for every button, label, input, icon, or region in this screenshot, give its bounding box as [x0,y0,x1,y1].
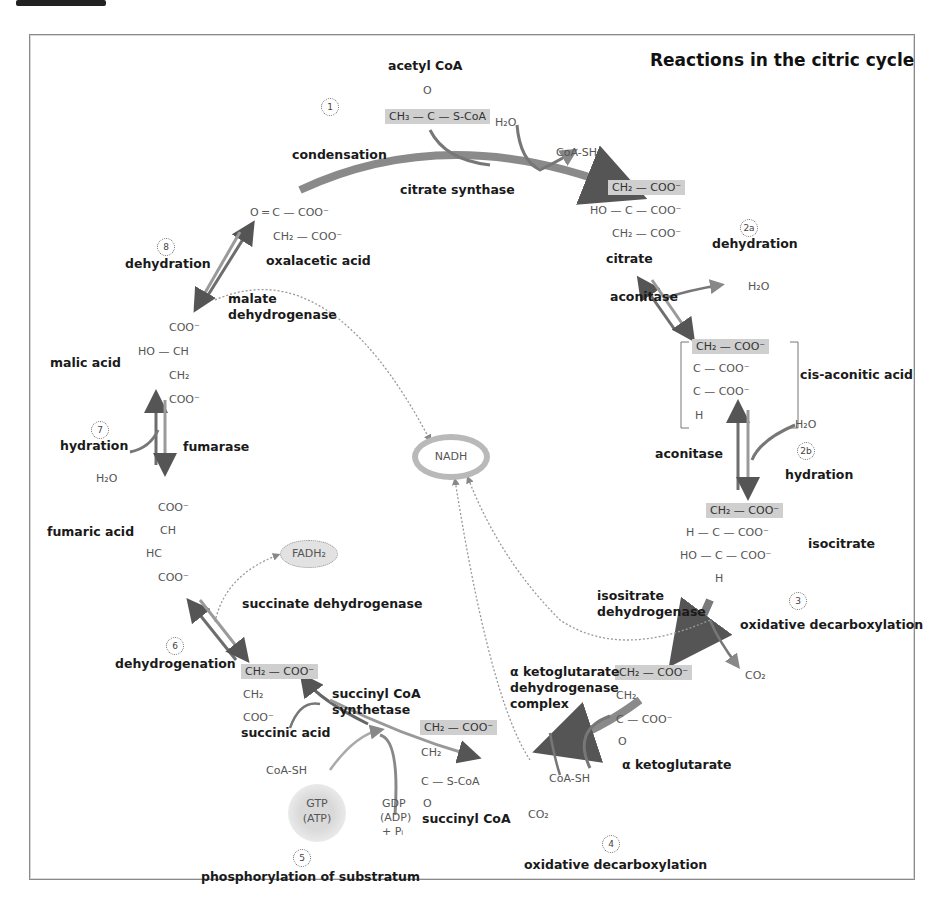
succinyl-coa-line4: O [423,796,432,811]
succinyl-coa-line3: C — S-CoA [421,774,480,789]
malic-line4: COO⁻ [169,392,200,407]
citrate-structure-line3: CH₂ — COO⁻ [612,226,681,241]
gdp-input: GDP [382,797,406,810]
step-1-enzyme: citrate synthase [400,182,515,198]
pi-input: + Pᵢ [382,825,403,838]
akg-structure: CH₂ — COO⁻ [615,665,692,680]
step-4-enzyme-line1: α ketoglutarate [510,664,620,680]
step-2b-reaction: hydration [785,467,853,483]
acetyl-coa-oxygen: O [423,83,432,98]
malic-line3: CH₂ [169,368,189,383]
step-4-marker: 4 [602,835,620,853]
isocitrate-line3: HO — C — COO⁻ [680,548,771,563]
step-3-enzyme-line2: dehydrogenase [597,604,706,620]
malic-line1: COO⁻ [169,320,200,335]
fumaric-line4: COO⁻ [158,570,189,585]
step-5-marker: 5 [293,849,311,867]
step-3-enzyme-line1: isositrate [597,588,664,604]
co2-output-3: CO₂ [745,669,766,682]
step-2a-reaction: dehydration [712,236,798,252]
succinyl-coa-line2: CH₂ [421,745,441,760]
gtp-atp-product: GTP (ATP) [288,784,346,842]
cis-aconitic-line3: C — COO⁻ [693,384,749,399]
succinyl-coa-structure: CH₂ — COO⁻ [420,720,497,735]
succinic-structure: CH₂ — COO⁻ [241,664,318,679]
adp-input: (ADP) [380,811,411,824]
step-2b-enzyme: aconitase [655,446,723,462]
citrate-label: citrate [606,251,653,267]
step-4-enzyme-line2: dehydrogenase [510,680,619,696]
step-5-reaction: phosphorylation of substratum [201,869,420,885]
succinic-line3: COO⁻ [243,710,274,725]
akg-label: α ketoglutarate [622,757,732,773]
coash-output-5: CoA-SH [266,764,307,777]
step-7-enzyme: fumarase [183,439,249,455]
step-7-marker: 7 [91,421,109,439]
step-6-marker: 6 [166,637,184,655]
malic-acid-label: malic acid [50,355,121,371]
co2-output-4: CO₂ [528,808,549,821]
acetyl-coa-label: acetyl CoA [388,58,463,74]
oxalacetic-line2: CH₂ — COO⁻ [273,229,342,244]
water-input-1: H₂O [495,116,516,129]
step-1-reaction: condensation [292,147,387,163]
succinic-line2: CH₂ [243,687,263,702]
fumaric-line1: COO⁻ [158,500,189,515]
step-2a-marker: 2a [740,219,758,237]
step-4-reaction: oxidative decarboxylation [524,857,707,873]
water-input-2b: H₂O [795,418,816,431]
step-7-reaction: hydration [60,438,128,454]
step-3-marker: 3 [789,592,807,610]
coash-input-4: CoA-SH [549,772,590,785]
cis-aconitic-label: cis-aconitic acid [800,367,913,383]
step-8-reaction: dehydration [125,256,211,272]
cis-aconitic-structure: CH₂ — COO⁻ [692,339,769,354]
citrate-structure: CH₂ — COO⁻ [608,180,685,195]
step-5-enzyme-line1: succinyl CoA [332,686,421,702]
step-6-reaction: dehydrogenation [115,656,236,672]
step-1-marker: 1 [321,98,339,116]
akg-line2: CH₂ [616,688,636,703]
atp-label: (ATP) [288,811,346,826]
gtp-label: GTP [288,796,346,811]
isocitrate-line4: H [715,571,723,586]
water-input-7: H₂O [96,472,117,485]
fumaric-line3: HC [146,546,162,561]
oxalacetic-line1: O ═ C — COO⁻ [250,205,329,220]
step-8-enzyme-line2: dehydrogenase [228,307,337,323]
succinyl-coa-label: succinyl CoA [422,811,511,827]
step-2a-enzyme: aconitase [610,289,678,305]
fumaric-line2: CH [160,523,176,538]
step-8-enzyme-line1: malate [228,291,277,307]
cis-aconitic-line4: H [695,408,703,423]
isocitrate-label: isocitrate [808,536,875,552]
step-3-reaction: oxidative decarboxylation [740,617,923,633]
step-5-enzyme-line2: synthetase [332,702,410,718]
nadh-product: NADH [418,440,484,474]
akg-line4: O [618,734,627,749]
malic-line2: HO — CH [138,344,189,359]
cis-aconitic-line2: C — COO⁻ [693,361,749,376]
succinic-acid-label: succinic acid [241,725,330,741]
water-output-2a: H₂O [748,280,769,293]
fadh2-product: FADH₂ [280,540,338,568]
step-8-marker: 8 [157,238,175,256]
akg-line3: C — COO⁻ [616,712,672,727]
coash-output-1: CoA-SH [556,146,597,159]
isocitrate-line2: H — C — COO⁻ [686,525,769,540]
step-4-enzyme-line3: complex [510,696,569,712]
step-6-enzyme: succinate dehydrogenase [242,596,422,612]
isocitrate-structure: CH₂ — COO⁻ [706,503,783,518]
citrate-structure-line2: HO — C — COO⁻ [590,203,681,218]
diagram-title: Reactions in the citric cycle [650,50,914,70]
acetyl-coa-structure: CH₃ — C — S-CoA [385,109,490,124]
oxalacetic-acid-label: oxalacetic acid [266,253,371,269]
fumaric-acid-label: fumaric acid [47,524,134,540]
step-2b-marker: 2b [797,442,815,460]
